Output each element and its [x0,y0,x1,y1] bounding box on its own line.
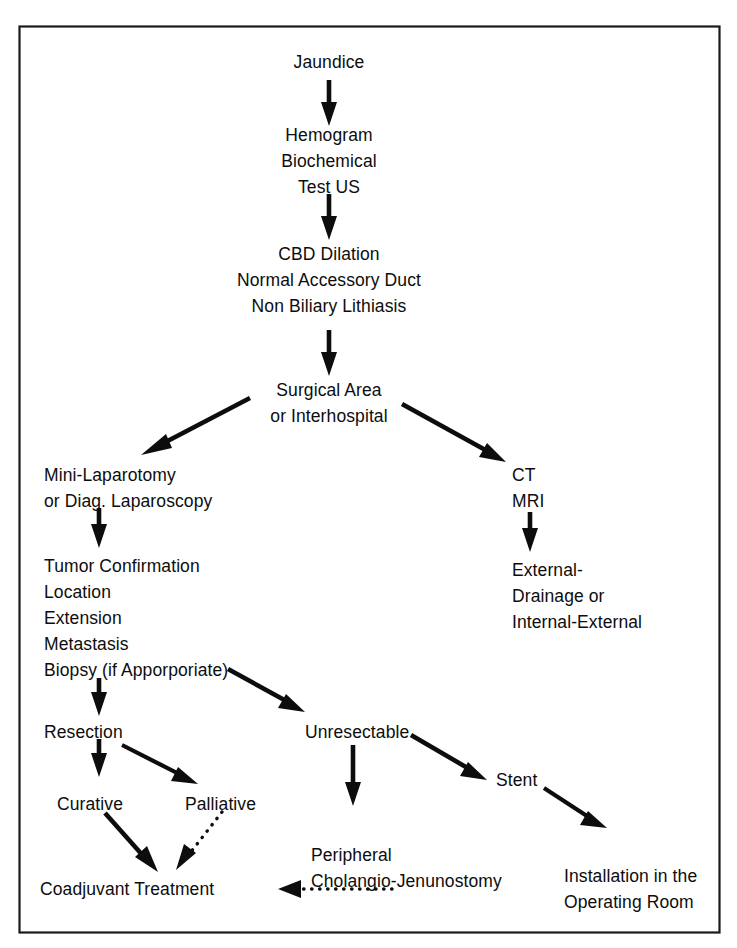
node-tumor-confirmation: Tumor Confirmation Location Extension Me… [44,556,228,680]
node-unresectable: Unresectable [305,722,409,742]
edge-palliative-to-coadjuvant [176,812,222,870]
node-ct-mri-line-1: CT [512,465,536,485]
node-hemogram-line-3: Test US [298,177,360,197]
flowchart-figure: Jaundice Hemogram Biochemical Test US CB… [0,0,737,948]
node-mini-laparotomy-line-1: Mini-Laparotomy [44,465,176,485]
node-hemogram-line-2: Biochemical [281,151,376,171]
node-external-drainage: External- Drainage or Internal-External [512,560,642,632]
node-tumor-line-5: Biopsy (if Apporporiate) [44,660,228,680]
node-jaundice: Jaundice [294,52,365,72]
edge-tumor-confirmation-to-resection [91,678,107,716]
node-curative: Curative [57,794,123,814]
node-tumor-line-4: Metastasis [44,634,129,654]
node-unresectable-label: Unresectable [305,722,409,742]
edge-cbd-to-surgical-area [321,330,337,376]
node-installation-line-1: Installation in the [564,866,697,886]
node-tumor-line-3: Extension [44,608,122,628]
node-peripheral-cholangio: Peripheral Cholangio-Jenunostomy [311,845,502,891]
node-stent: Stent [496,770,537,790]
node-external-line-2: Drainage or [512,586,605,606]
node-jaundice-line-1: Jaundice [294,52,365,72]
edge-tumor-confirmation-to-unresectable [228,669,305,712]
node-ct-mri: CT MRI [512,465,544,511]
node-resection-label: Resection [44,722,123,742]
node-coadjuvant-treatment: Coadjuvant Treatment [40,879,214,899]
edge-jaundice-to-hemogram [321,80,337,126]
node-layer: Jaundice Hemogram Biochemical Test US CB… [40,52,697,912]
edge-surgical-area-to-mini-laparotomy [141,398,250,455]
node-installation-operating-room: Installation in the Operating Room [564,866,697,912]
node-peripheral-line-2: Cholangio-Jenunostomy [311,871,502,891]
node-ct-mri-line-2: MRI [512,491,544,511]
node-cbd-dilation: CBD Dilation Normal Accessory Duct Non B… [237,244,421,316]
node-external-line-3: Internal-External [512,612,642,632]
edge-mini-laparotomy-to-tumor-confirmation [91,508,107,548]
node-mini-laparotomy-line-2: or Diag. Laparoscopy [44,491,212,511]
edge-curative-to-coadjuvant [105,813,158,872]
flowchart-canvas: Jaundice Hemogram Biochemical Test US CB… [0,0,737,948]
node-surgical-area: Surgical Area or Interhospital [270,380,387,426]
edge-unresectable-to-peripheral-cholangio [345,745,361,806]
node-installation-line-2: Operating Room [564,892,694,912]
node-palliative-label: Palliative [185,794,256,814]
edge-surgical-area-to-ct-mri [402,404,506,462]
node-palliative: Palliative [185,794,256,814]
edge-unresectable-to-stent [411,735,487,780]
node-peripheral-line-1: Peripheral [311,845,392,865]
edge-hemogram-to-cbd [321,194,337,240]
edge-resection-to-curative [91,739,107,777]
node-cbd-line-1: CBD Dilation [278,244,379,264]
node-tumor-line-2: Location [44,582,111,602]
edge-resection-to-palliative [122,745,198,784]
node-cbd-line-2: Normal Accessory Duct [237,270,421,290]
node-hemogram: Hemogram Biochemical Test US [281,125,376,197]
node-resection: Resection [44,722,123,742]
edge-stent-to-installation [544,788,607,828]
node-surgical-area-line-1: Surgical Area [276,380,382,400]
node-stent-label: Stent [496,770,537,790]
node-hemogram-line-1: Hemogram [285,125,372,145]
node-surgical-area-line-2: or Interhospital [270,406,387,426]
edge-ct-mri-to-external-drainage [522,512,538,552]
node-tumor-line-1: Tumor Confirmation [44,556,200,576]
node-coadjuvant-label: Coadjuvant Treatment [40,879,214,899]
node-curative-label: Curative [57,794,123,814]
node-mini-laparotomy: Mini-Laparotomy or Diag. Laparoscopy [44,465,212,511]
node-external-line-1: External- [512,560,583,580]
node-cbd-line-3: Non Biliary Lithiasis [252,296,407,316]
